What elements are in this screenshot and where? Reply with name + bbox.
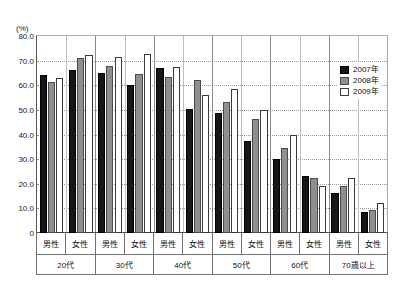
bar-group — [300, 36, 329, 233]
legend-label: 2009年 — [353, 86, 379, 97]
bar-group — [183, 36, 212, 233]
x-axis-gender-cell: 女性 — [241, 233, 270, 255]
bars-layer — [37, 36, 387, 233]
x-axis-age-cell: 50代 — [212, 255, 271, 275]
x-axis-age-cell: 40代 — [153, 255, 212, 275]
bar — [115, 57, 122, 233]
bar-chart: (%) 80.070.060.050.040.030.020.010.00 20… — [0, 0, 406, 281]
bar — [173, 67, 180, 233]
bar — [223, 102, 230, 233]
bar — [127, 85, 134, 233]
x-axis-gender-cell: 男性 — [95, 233, 124, 255]
y-tick-label: 30.0 — [4, 155, 34, 164]
y-tick-label: 20.0 — [4, 179, 34, 188]
y-tick-label: 60.0 — [4, 81, 34, 90]
x-axis-gender-row: 男性女性男性女性男性女性男性女性男性女性男性女性 — [36, 233, 388, 255]
bar — [77, 58, 84, 233]
bar — [135, 74, 142, 233]
bar — [290, 135, 297, 233]
x-axis-gender-cell: 男性 — [36, 233, 65, 255]
bar — [215, 113, 222, 233]
bar — [202, 95, 209, 233]
legend-item[interactable]: 2007年 — [340, 64, 379, 75]
bar — [194, 80, 201, 233]
legend-item[interactable]: 2009年 — [340, 86, 379, 97]
bar — [69, 70, 76, 234]
bar — [377, 203, 384, 233]
bar — [331, 193, 338, 233]
bar — [144, 54, 151, 233]
bar-group — [154, 36, 183, 233]
x-axis-age-row: 20代30代40代50代60代70歳以上 — [36, 255, 388, 275]
bar — [281, 148, 288, 233]
x-axis-gender-cell: 男性 — [329, 233, 358, 255]
bar — [106, 66, 113, 233]
bar-group — [95, 36, 124, 233]
bar — [252, 119, 259, 233]
x-axis-age-cell: 60代 — [270, 255, 329, 275]
bar — [310, 178, 317, 233]
bar — [319, 186, 326, 233]
legend-swatch-icon — [340, 88, 349, 96]
bar — [56, 78, 63, 233]
x-axis-gender-cell: 男性 — [270, 233, 299, 255]
bar — [231, 89, 238, 233]
bar — [361, 212, 368, 233]
bar — [40, 75, 47, 233]
bar-group — [241, 36, 270, 233]
bar — [340, 186, 347, 233]
bar-group — [270, 36, 299, 233]
bar — [156, 68, 163, 233]
x-axis-gender-cell: 女性 — [124, 233, 153, 255]
x-axis-gender-cell: 男性 — [212, 233, 241, 255]
bar-group — [37, 36, 66, 233]
y-tick-label: 10.0 — [4, 204, 34, 213]
legend-swatch-icon — [340, 66, 349, 74]
bar-group — [66, 36, 95, 233]
bar — [302, 176, 309, 233]
x-axis-age-cell: 30代 — [95, 255, 154, 275]
bar — [260, 110, 267, 233]
y-tick-label: 50.0 — [4, 105, 34, 114]
y-tick-label: 0 — [4, 229, 34, 238]
x-axis-gender-cell: 女性 — [358, 233, 388, 255]
bar — [98, 73, 105, 233]
legend-item[interactable]: 2008年 — [340, 75, 379, 86]
bar — [85, 55, 92, 233]
legend-swatch-icon — [340, 77, 349, 85]
y-tick-label: 40.0 — [4, 130, 34, 139]
bar — [165, 77, 172, 233]
bar — [244, 141, 251, 233]
x-axis-age-cell: 20代 — [36, 255, 95, 275]
x-axis-age-cell: 70歳以上 — [329, 255, 389, 275]
bar-group — [212, 36, 241, 233]
bar — [186, 109, 193, 233]
x-axis-gender-cell: 女性 — [182, 233, 211, 255]
bar — [48, 82, 55, 233]
x-axis-labels: 男性女性男性女性男性女性男性女性男性女性男性女性 20代30代40代50代60代… — [36, 233, 388, 275]
x-axis-gender-cell: 女性 — [299, 233, 328, 255]
bar-group — [125, 36, 154, 233]
legend-label: 2008年 — [353, 75, 379, 86]
y-tick-label: 80.0 — [4, 32, 34, 41]
x-axis-gender-cell: 女性 — [65, 233, 94, 255]
y-axis-tick-labels: 80.070.060.050.040.030.020.010.00 — [0, 35, 34, 233]
y-tick-label: 70.0 — [4, 56, 34, 65]
bar — [348, 178, 355, 233]
legend: 2007年2008年2009年 — [337, 62, 382, 99]
x-axis-gender-cell: 男性 — [153, 233, 182, 255]
bar — [369, 210, 376, 233]
bar — [273, 159, 280, 233]
legend-label: 2007年 — [353, 64, 379, 75]
